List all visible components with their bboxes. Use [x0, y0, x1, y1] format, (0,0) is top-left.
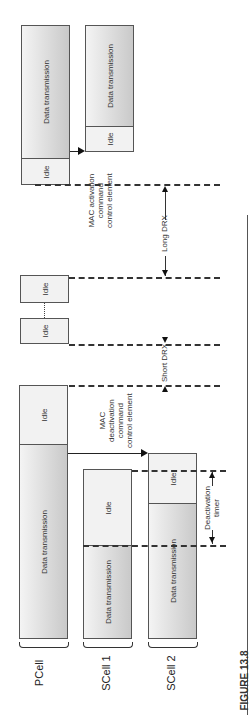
pcell-label: PCell	[33, 660, 45, 686]
pcell-brace	[19, 642, 69, 648]
scell1-brace	[83, 642, 133, 648]
short-drx-label: Short DRX	[160, 344, 169, 382]
figure-caption: FIGURE 13.8	[239, 650, 250, 710]
deactivation-arrow-head	[141, 449, 148, 457]
pcell-idle-late: Idle	[21, 158, 70, 185]
long-drx-label: Long DRX	[160, 215, 169, 252]
long-drx-arrowhead-bottom	[162, 270, 168, 276]
scell2-idle-late: Idle	[85, 126, 134, 152]
pcell-data-transmission-late: Data transmission	[21, 25, 70, 159]
dashed-line-activation	[35, 184, 220, 186]
scell1-label: SCell 1	[100, 655, 112, 690]
deactivation-timer-arrowhead-bottom	[209, 537, 215, 543]
scell2-label: SCell 2	[165, 655, 177, 690]
dashed-line-long-drx-start	[69, 277, 220, 279]
mac-activation-label: MAC activation command control element	[87, 173, 114, 228]
figure-rule	[247, 215, 248, 715]
long-drx-arrowhead-top	[162, 186, 168, 192]
deactivation-timer-arrowhead-top	[209, 472, 215, 478]
short-drx-arrowhead-top	[162, 337, 168, 343]
scell2-idle-early: Idle	[148, 453, 197, 504]
dashed-line-short-drx-start	[69, 385, 220, 387]
short-drx-arrowhead-bottom	[162, 386, 168, 392]
pcell-drx-idle-2: Idle	[20, 318, 69, 344]
mac-deactivation-label: MAC deactivation command control element	[98, 393, 134, 448]
scell2-data-transmission-late: Data transmission	[85, 25, 134, 127]
dashed-line-short-drx-end	[69, 344, 220, 346]
scell1-data-transmission: Data transmission	[83, 545, 132, 639]
deactivation-arrow-line	[68, 453, 146, 454]
scell2-brace	[148, 642, 198, 648]
scell2-data-transmission-early: Data transmission	[148, 503, 197, 639]
deactivation-timer-label: Deactivation timer	[203, 486, 221, 530]
pcell-drx-idle-1: Idle	[20, 275, 69, 303]
activation-arrow-head	[78, 147, 85, 155]
pcell-data-transmission-early: Data transmission	[19, 444, 68, 639]
scell1-idle: Idle	[83, 469, 132, 546]
dashed-line-deactivation-timer-start	[83, 545, 226, 547]
pcell-idle-early: Idle	[19, 385, 68, 445]
drx-dotted-connector	[44, 303, 45, 318]
